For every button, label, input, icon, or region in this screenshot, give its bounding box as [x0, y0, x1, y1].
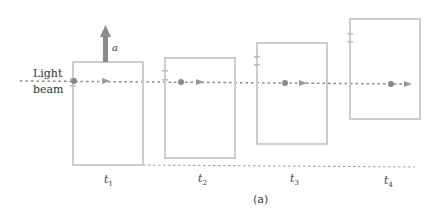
- caption: (a): [253, 193, 268, 206]
- diagram-canvas: [0, 0, 441, 212]
- time-label-t4: t4: [384, 174, 393, 189]
- beam-label: beam: [33, 84, 64, 96]
- time-label-t3: t3: [290, 172, 299, 187]
- light-beam-line: [20, 81, 410, 84]
- light-label: Light: [33, 68, 62, 80]
- time-label-t2: t2: [198, 172, 207, 187]
- floor-line: [143, 165, 415, 167]
- elevator-box-t1: [70, 25, 143, 165]
- acceleration-label: a: [112, 42, 118, 53]
- elevator-box-t4: [347, 19, 420, 119]
- time-label-t1: t1: [104, 173, 113, 188]
- elevator-box-t2: [162, 58, 235, 158]
- elevator-box-t3: [254, 43, 327, 144]
